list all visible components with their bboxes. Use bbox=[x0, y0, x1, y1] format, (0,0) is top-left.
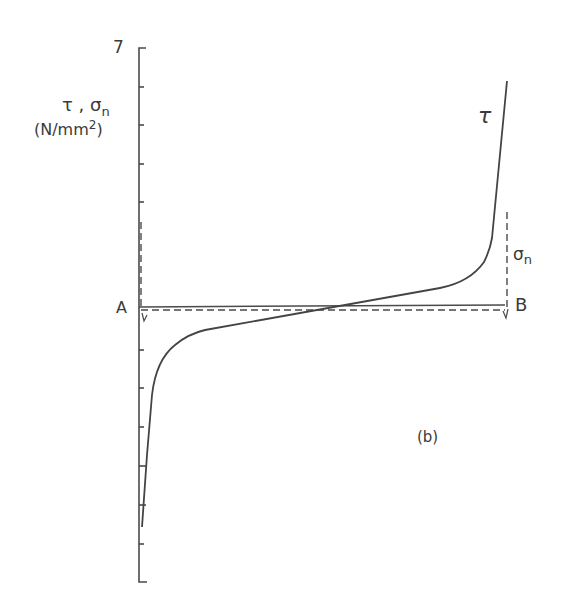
sigma-n-end-marks bbox=[142, 309, 508, 321]
y-axis-units-close: ) bbox=[96, 120, 102, 139]
y-axis-units: (N/mm2) bbox=[34, 118, 103, 139]
sigma-n-symbol: σ bbox=[513, 244, 524, 264]
sigma-n-sub: n bbox=[524, 252, 532, 267]
panel-label: (b) bbox=[417, 428, 438, 446]
y-axis-symbols: τ , σn bbox=[62, 94, 110, 119]
sigma-n-curve bbox=[141, 212, 507, 310]
point-a-label: A bbox=[116, 298, 127, 317]
y-axis-symbol-sub: n bbox=[101, 104, 109, 119]
y-tick-label-top: 7 bbox=[113, 37, 124, 57]
y-axis-units-text: (N/mm bbox=[34, 120, 89, 139]
point-b-label: B bbox=[515, 294, 527, 315]
tau-curve-label: τ bbox=[478, 103, 491, 128]
stress-distribution-chart bbox=[0, 0, 566, 615]
sigma-n-curve-label: σn bbox=[513, 244, 532, 267]
tau-curve bbox=[142, 81, 507, 527]
ab-baseline bbox=[139, 305, 505, 307]
y-axis-symbol-text: τ , σ bbox=[62, 94, 101, 115]
